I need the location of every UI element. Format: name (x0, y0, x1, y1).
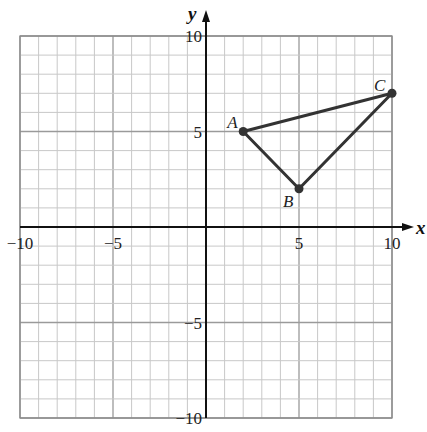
x-axis-arrow-icon (402, 223, 414, 231)
y-tick-label: −5 (184, 314, 202, 333)
x-tick-label: −5 (104, 234, 122, 253)
point-label-b: B (283, 192, 294, 211)
x-tick-label: −10 (7, 234, 34, 253)
y-axis-arrow-icon (202, 10, 210, 22)
points: ABC (226, 76, 396, 211)
y-tick-label: 10 (185, 27, 202, 46)
y-tick-label: −10 (175, 409, 202, 428)
y-axis-label: y (186, 3, 197, 24)
point-c (388, 89, 397, 98)
x-axis-label: x (415, 217, 426, 238)
point-a (239, 127, 248, 136)
y-tick-label: 5 (194, 123, 203, 142)
point-label-a: A (226, 113, 238, 132)
point-b (295, 184, 304, 193)
axes: x y (20, 3, 426, 418)
coordinate-plane: x y −10−5510−10−5510 ABC (0, 0, 427, 432)
x-tick-label: 5 (295, 234, 304, 253)
point-label-c: C (374, 76, 386, 95)
x-tick-label: 10 (384, 234, 401, 253)
